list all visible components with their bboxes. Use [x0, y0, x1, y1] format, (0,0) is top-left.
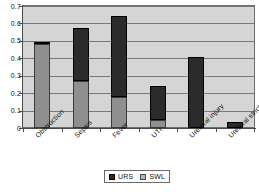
- bar-group: [227, 6, 243, 128]
- x-axis-tick-mark: [23, 129, 24, 132]
- bar-segment-urs: [188, 57, 204, 128]
- y-axis-tick-mark: [19, 111, 22, 112]
- bar-segment-swl: [34, 44, 50, 128]
- bar-group: [188, 6, 204, 128]
- x-axis-tick-mark: [254, 129, 255, 132]
- legend-item: SWL: [140, 173, 165, 180]
- y-axis-tick-label: 0.2: [1, 90, 21, 97]
- x-axis-tick-mark: [139, 129, 140, 132]
- y-axis-tick-label: 0.7: [1, 3, 21, 10]
- legend-label: SWL: [149, 173, 165, 180]
- y-axis-tick-label: 0.3: [1, 72, 21, 79]
- y-axis-tick-labels: 0.70.60.50.40.30.20.10: [0, 0, 21, 196]
- bar-group: [34, 6, 50, 128]
- y-axis-tick-label: 0.5: [1, 37, 21, 44]
- y-axis-tick-mark: [19, 58, 22, 59]
- y-axis-tick-label: 0: [1, 125, 21, 132]
- y-axis-tick-label: 0.1: [1, 107, 21, 114]
- bar-segment-urs: [73, 28, 89, 81]
- y-axis-tick-label: 0.4: [1, 55, 21, 62]
- x-axis-tick-mark: [62, 129, 63, 132]
- x-axis-tick-mark: [177, 129, 178, 132]
- chart-legend: URSSWL: [104, 170, 170, 183]
- bar-segment-urs: [34, 42, 50, 44]
- y-axis-tick-mark: [19, 6, 22, 7]
- bar-segment-urs: [111, 16, 127, 96]
- bar-group: [111, 6, 127, 128]
- y-axis-tick-mark: [19, 23, 22, 24]
- y-axis-tick-mark: [19, 93, 22, 94]
- legend-label: URS: [118, 173, 133, 180]
- bar-group: [73, 6, 89, 128]
- y-axis-tick-mark: [19, 76, 22, 77]
- legend-swatch-swl: [140, 174, 146, 180]
- x-axis-tick-mark: [100, 129, 101, 132]
- legend-item: URS: [109, 173, 133, 180]
- legend-swatch-urs: [109, 174, 115, 180]
- y-axis-tick-label: 0.6: [1, 20, 21, 27]
- y-axis-tick-mark: [19, 41, 22, 42]
- bar-chart: 0.70.60.50.40.30.20.10 ObstructionSepsis…: [0, 0, 259, 196]
- bar-segment-urs: [150, 86, 166, 120]
- x-axis-tick-mark: [216, 129, 217, 132]
- bar-group: [150, 6, 166, 128]
